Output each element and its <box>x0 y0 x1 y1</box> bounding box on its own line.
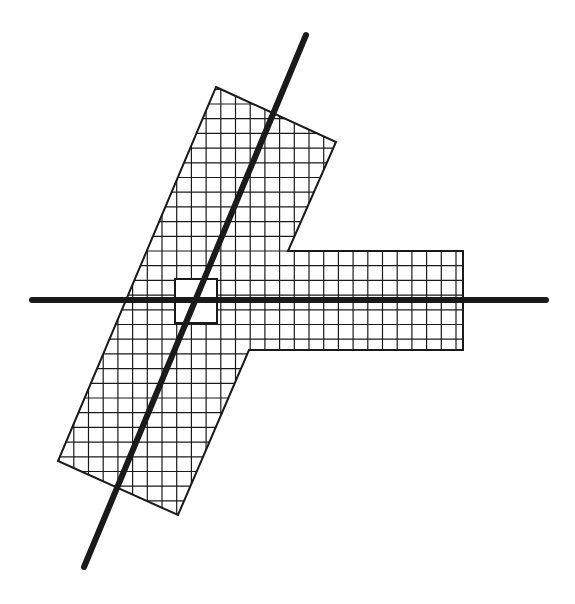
diagram-svg <box>0 0 575 604</box>
crosshatch-grid <box>44 75 463 515</box>
diagram-canvas <box>0 0 575 604</box>
